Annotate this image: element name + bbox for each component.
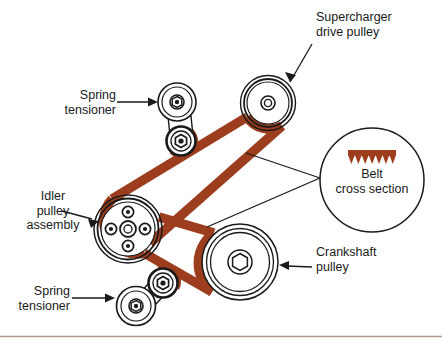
- label-crankshaft-pulley: Crankshaft pulley: [316, 245, 376, 274]
- idler-pulley-hub-bore: [124, 225, 132, 233]
- tensioner-upper-pivot-center: [178, 138, 183, 143]
- label-spring-tensioner-lower: Spring tensioner: [0, 284, 70, 313]
- belt-routing-diagram: Supercharger drive pulley Spring tension…: [0, 0, 442, 345]
- label-spring-tensioner-upper: Spring tensioner: [20, 88, 116, 117]
- supercharger-drive-pulley[interactable]: [241, 76, 296, 131]
- idler-bolt-right-core: [143, 227, 147, 231]
- tensioner-upper-hub-center: [175, 100, 179, 104]
- arrowhead-spring-tensioner-upper: [148, 98, 158, 107]
- idler-bolt-top-core: [126, 210, 130, 214]
- label-supercharger-drive-pulley: Supercharger drive pulley: [316, 10, 392, 39]
- spring-tensioner-lower[interactable]: [117, 269, 178, 326]
- leader-belt-cross-section-upper: [246, 153, 320, 178]
- idler-bolt-bottom-core: [126, 244, 130, 248]
- spring-tensioner-upper[interactable]: [158, 83, 196, 156]
- idler-pulley-assembly[interactable]: [94, 195, 162, 263]
- supercharger-pulley-hub-inner: [264, 99, 271, 106]
- label-idler-pulley-assembly: Idler pulley assembly: [5, 189, 101, 233]
- idler-bolt-left-core: [109, 227, 113, 231]
- leader-belt-cross-section-lower: [207, 178, 320, 227]
- leader-crankshaft-pulley: [286, 266, 312, 267]
- crankshaft-pulley[interactable]: [202, 224, 278, 300]
- label-belt-cross-section: Belt cross section: [316, 167, 428, 196]
- crankshaft-pulley-hub-nut: [233, 254, 248, 271]
- tensioner-lower-hub-center: [134, 304, 138, 308]
- arrowhead-spring-tensioner-lower: [105, 294, 115, 303]
- belt-profile-back: [348, 150, 396, 156]
- tensioner-lower-pivot-center: [160, 280, 165, 285]
- arrowhead-crankshaft: [279, 261, 289, 270]
